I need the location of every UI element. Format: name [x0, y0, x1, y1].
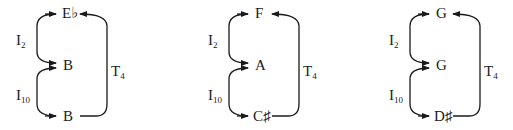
label-lower-operation: I10: [16, 88, 30, 108]
note-middle: G: [436, 58, 447, 73]
note-bottom: D♯: [434, 109, 452, 124]
label-upper-operation: I2: [16, 33, 26, 53]
note-middle: B: [63, 58, 73, 73]
note-bottom: C♯: [253, 109, 271, 124]
label-upper-operation: I2: [208, 33, 218, 53]
transformation-diagram-3: G G D♯ I2 I10 T4: [373, 0, 513, 130]
arrows-1: [0, 0, 170, 130]
arrows-2: [192, 0, 362, 130]
label-lower-operation: I10: [208, 88, 222, 108]
label-right-operation: T4: [484, 64, 498, 84]
note-top: E♭: [62, 6, 78, 21]
note-top: F: [255, 6, 263, 21]
label-lower-operation: I10: [389, 88, 403, 108]
note-middle: A: [255, 58, 266, 73]
transformation-diagram-2: F A C♯ I2 I10 T4: [192, 0, 362, 130]
label-right-operation: T4: [111, 64, 125, 84]
label-upper-operation: I2: [389, 33, 399, 53]
transformation-diagram-1: E♭ B B I2 I10 T4: [0, 0, 170, 130]
note-top: G: [436, 6, 447, 21]
note-bottom: B: [63, 109, 73, 124]
label-right-operation: T4: [303, 64, 317, 84]
